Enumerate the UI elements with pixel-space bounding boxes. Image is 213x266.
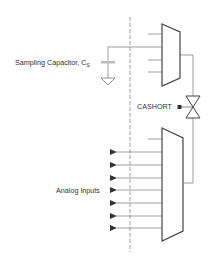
analog-input-1: [110, 149, 162, 155]
sampling-capacitor-text: Sampling Capacitor, C: [15, 58, 87, 67]
input-arrow-icon: [110, 162, 117, 168]
capacitor-icon: [101, 61, 115, 64]
cashort-label: CASHORT: [137, 103, 172, 110]
analog-input-7: [110, 225, 162, 231]
bottom-multiplexer: [162, 128, 183, 241]
ground-icon: [101, 78, 115, 85]
input-arrow-icon: [110, 149, 117, 155]
top-mux-output-wire: [180, 55, 193, 96]
analog-input-2: [110, 162, 162, 168]
diagram-canvas: [0, 0, 213, 266]
top-multiplexer: [162, 24, 180, 86]
sampling-capacitor-subscript: S: [87, 62, 90, 68]
analog-input-4: [110, 187, 162, 193]
analog-input-6: [110, 213, 162, 219]
analog-inputs-label: Analog Inputs: [56, 187, 100, 194]
input-arrow-icon: [110, 187, 117, 193]
cashort-control-terminal: [178, 105, 182, 109]
analog-input-3: [110, 175, 162, 181]
sampling-capacitor-label: Sampling Capacitor, CS: [15, 59, 90, 68]
input-arrow-icon: [110, 175, 117, 181]
input-arrow-icon: [110, 213, 117, 219]
analog-input-5: [110, 200, 162, 206]
input-arrow-icon: [110, 200, 117, 206]
input-arrow-icon: [110, 225, 117, 231]
